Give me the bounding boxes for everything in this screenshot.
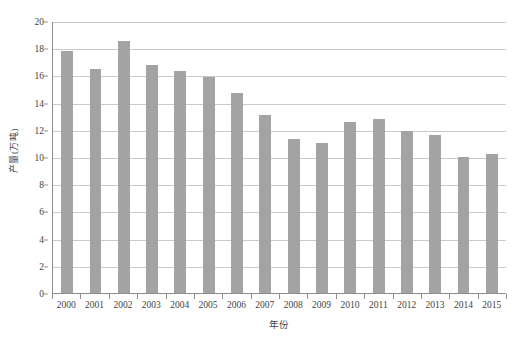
x-axis-tick-label: 2002 <box>109 300 137 316</box>
bar-slot <box>421 22 449 293</box>
bar[interactable] <box>231 93 243 293</box>
x-axis-tick-mark <box>194 294 195 299</box>
bar-slot <box>166 22 194 293</box>
x-axis-tick-label: 2006 <box>222 300 250 316</box>
bar[interactable] <box>316 143 328 293</box>
x-axis-tick-label: 2000 <box>52 300 80 316</box>
y-axis-tick-mark <box>44 158 48 159</box>
y-axis-title-text: 产量(万吨) <box>7 128 20 173</box>
x-axis-tick-mark <box>222 294 223 299</box>
bar-slot <box>280 22 308 293</box>
bar-slot <box>251 22 279 293</box>
bar[interactable] <box>288 139 300 293</box>
x-axis-tick-label: 2005 <box>194 300 222 316</box>
x-axis-tick-label: 2013 <box>421 300 449 316</box>
bar-slot <box>223 22 251 293</box>
x-axis-title: 年份 <box>52 317 506 331</box>
x-axis-tick-mark <box>137 294 138 299</box>
y-axis-title: 产量(万吨) <box>2 0 24 300</box>
x-axis-tick-label: 2008 <box>279 300 307 316</box>
y-axis-tick-mark <box>44 49 48 50</box>
x-axis-tick-mark <box>109 294 110 299</box>
bar-chart: 产量(万吨) 20181614121086420 200020012002200… <box>0 0 516 342</box>
x-axis-tick-label: 2009 <box>307 300 335 316</box>
x-axis-tick-mark <box>449 294 450 299</box>
x-axis-tick-mark <box>307 294 308 299</box>
bar[interactable] <box>174 71 186 293</box>
bar-slot <box>364 22 392 293</box>
bar[interactable] <box>401 131 413 293</box>
x-axis-tick-mark <box>166 294 167 299</box>
bar-slot <box>449 22 477 293</box>
y-axis-tick-label: 18 <box>35 44 45 54</box>
bar[interactable] <box>373 119 385 293</box>
y-axis-tick-mark <box>44 130 48 131</box>
x-axis-tick-mark <box>52 294 53 299</box>
x-axis-tick-label: 2014 <box>449 300 477 316</box>
y-axis-tick-mark <box>44 239 48 240</box>
y-axis-tick-label: 20 <box>35 17 45 27</box>
x-axis-tick-marks <box>52 294 506 299</box>
x-axis-tick-mark <box>251 294 252 299</box>
x-axis-tick-mark <box>279 294 280 299</box>
y-axis-tick-mark <box>44 185 48 186</box>
bar[interactable] <box>203 77 215 293</box>
bar-slot <box>195 22 223 293</box>
x-axis-tick-label: 2015 <box>478 300 506 316</box>
x-axis-tick-mark <box>506 294 507 299</box>
bar-slot <box>53 22 81 293</box>
x-axis-tick-label: 2004 <box>166 300 194 316</box>
x-axis-tick-mark <box>478 294 479 299</box>
bar-slot <box>336 22 364 293</box>
y-axis-tick-label: 12 <box>35 126 45 136</box>
bar[interactable] <box>344 122 356 293</box>
x-axis-tick-label: 2001 <box>80 300 108 316</box>
y-axis-tick-mark <box>44 212 48 213</box>
y-axis-tick-mark <box>44 266 48 267</box>
bar[interactable] <box>429 135 441 293</box>
bars-layer <box>53 22 506 293</box>
y-axis-tick-labels: 20181614121086420 <box>22 22 48 294</box>
y-axis-tick-label: 10 <box>35 153 45 163</box>
x-axis-tick-label: 2010 <box>336 300 364 316</box>
bar[interactable] <box>486 154 498 293</box>
bar[interactable] <box>458 157 470 293</box>
y-axis-tick-mark <box>44 103 48 104</box>
x-axis-tick-label: 2011 <box>364 300 392 316</box>
x-axis-tick-label: 2012 <box>393 300 421 316</box>
bar-slot <box>138 22 166 293</box>
x-axis-tick-mark <box>421 294 422 299</box>
x-axis-tick-mark <box>364 294 365 299</box>
y-axis-tick-mark <box>44 294 48 295</box>
bar-slot <box>110 22 138 293</box>
bar[interactable] <box>90 69 102 293</box>
bar[interactable] <box>61 51 73 293</box>
y-axis-tick-mark <box>44 76 48 77</box>
bar-slot <box>478 22 506 293</box>
y-axis-tick-mark <box>44 22 48 23</box>
bar-slot <box>393 22 421 293</box>
bar-slot <box>308 22 336 293</box>
bar[interactable] <box>146 65 158 293</box>
x-axis-tick-label: 2003 <box>137 300 165 316</box>
bar-slot <box>81 22 109 293</box>
y-axis-tick-label: 14 <box>35 99 45 109</box>
x-axis-tick-mark <box>336 294 337 299</box>
bar[interactable] <box>118 41 130 293</box>
y-axis-tick-label: 16 <box>35 71 45 81</box>
plot-area <box>52 22 506 294</box>
x-axis-tick-labels: 2000200120022003200420052006200720082009… <box>52 300 506 316</box>
x-axis-tick-mark <box>80 294 81 299</box>
x-axis-tick-label: 2007 <box>251 300 279 316</box>
bar[interactable] <box>259 115 271 293</box>
x-axis-tick-mark <box>393 294 394 299</box>
